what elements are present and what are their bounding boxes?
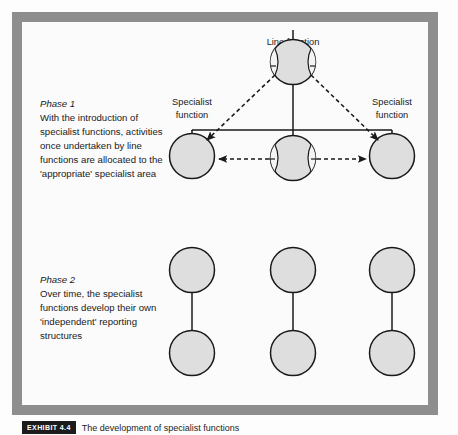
phase1-text-block: Phase 1 With the introduction of special… (40, 98, 163, 179)
figure-caption: EXHIBIT 4.4 The development of specialis… (22, 421, 239, 434)
column-1-top-circle (170, 248, 215, 293)
phase2-title: Phase 2 (40, 274, 76, 285)
specialist-right-circle (370, 134, 415, 179)
phase1-body-line-2: specialist functions, activities (40, 126, 163, 137)
column-1-bottom-circle (170, 331, 215, 376)
phase1-body-line-3: once undertaken by line (40, 140, 142, 151)
phase1-body-line-4: functions are allocated to the (40, 154, 163, 165)
line-function-bottom-left-crescent (266, 144, 278, 173)
column-3-bottom-circle (370, 331, 415, 376)
label-specialist-right-line2: function (376, 110, 409, 120)
figure-root: Phase 1 With the introduction of special… (0, 0, 458, 435)
label-specialist-right-line1: Specialist (372, 97, 412, 107)
specialist-functions-diagram: Phase 1 With the introduction of special… (22, 22, 428, 405)
phase2-body-line-3: 'independent' reporting (40, 316, 137, 327)
phase2-column-1 (170, 248, 215, 376)
column-3-top-circle (370, 248, 415, 293)
phase2-body-line-1: Over time, the specialist (40, 288, 143, 299)
label-specialist-left-line2: function (176, 110, 209, 120)
phase2-body-line-4: structures (40, 330, 82, 341)
label-specialist-left-line1: Specialist (172, 97, 212, 107)
caption-badge: EXHIBIT 4.4 (22, 421, 76, 434)
phase2-column-3 (370, 248, 415, 376)
line-function-bottom-right-crescent (308, 144, 320, 173)
phase1-body-line-5: 'appropriate' specialist area (40, 168, 157, 179)
phase1-body-line-1: With the introduction of (40, 112, 138, 123)
phase2-text-block: Phase 2 Over time, the specialist functi… (40, 274, 156, 341)
phase2-column-2 (271, 248, 316, 376)
caption-title: The development of specialist functions (82, 423, 240, 433)
line-function-top-left-crescent (266, 48, 278, 77)
phase1-title: Phase 1 (40, 98, 75, 109)
node-line-function-bottom (266, 136, 320, 181)
column-2-bottom-circle (271, 331, 316, 376)
phase2-body-line-2: functions develop their own (40, 302, 156, 313)
column-2-top-circle (271, 248, 316, 293)
line-function-top-right-crescent (308, 48, 320, 77)
